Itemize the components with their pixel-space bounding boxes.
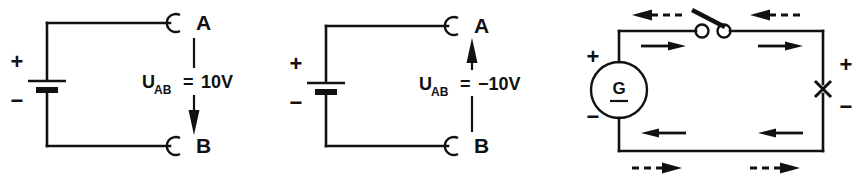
battery-plus-label: + bbox=[290, 51, 303, 76]
source-minus-label: − bbox=[587, 104, 600, 129]
voltage-arrow-head-down bbox=[189, 110, 200, 135]
circuit-left-svg: + − A B U AB = 10V bbox=[0, 0, 288, 178]
battery-minus-label: − bbox=[290, 90, 303, 115]
voltage-value: 10V bbox=[201, 72, 233, 92]
voltage-equals: = bbox=[460, 74, 471, 94]
switch-lever-icon[interactable] bbox=[694, 11, 723, 26]
terminal-label-a: A bbox=[474, 14, 489, 37]
outer-dashed-arrow-bottom-left bbox=[632, 163, 682, 174]
outer-dashed-arrow-top-right bbox=[750, 10, 800, 21]
voltage-value: −10V bbox=[478, 74, 521, 94]
terminal-label-a: A bbox=[196, 11, 211, 34]
figure-root: + − A B U AB = 10V bbox=[0, 0, 864, 178]
terminal-label-b: B bbox=[196, 134, 211, 157]
circuit-left: + − A B U AB = 10V bbox=[0, 0, 288, 178]
voltage-subscript: AB bbox=[431, 85, 449, 99]
inner-arrow-top-right bbox=[758, 42, 803, 51]
switch-contact-left-icon[interactable] bbox=[696, 25, 709, 38]
generator-label: G bbox=[612, 79, 625, 98]
circuit-right-svg: G + − + − bbox=[578, 0, 864, 178]
voltage-equals: = bbox=[183, 72, 194, 92]
voltage-subscript: AB bbox=[154, 83, 172, 97]
terminal-label-b: B bbox=[474, 134, 489, 157]
inner-arrow-top-left bbox=[641, 42, 686, 51]
inner-arrow-bottom-left bbox=[641, 129, 686, 138]
outer-dashed-arrow-bottom-right bbox=[750, 163, 800, 174]
circuit-right: G + − + − bbox=[578, 0, 864, 178]
inner-arrow-bottom-right bbox=[758, 129, 803, 138]
outer-dashed-arrow-top-left bbox=[632, 10, 682, 21]
circuit-middle-svg: + − A B U AB = −10V bbox=[288, 0, 578, 178]
battery-minus-label: − bbox=[11, 88, 24, 113]
battery-plus-label: + bbox=[11, 49, 24, 74]
load-minus-label: − bbox=[840, 94, 853, 119]
circuit-middle: + − A B U AB = −10V bbox=[288, 0, 578, 178]
load-plus-label: + bbox=[840, 52, 853, 77]
source-plus-label: + bbox=[587, 44, 600, 69]
